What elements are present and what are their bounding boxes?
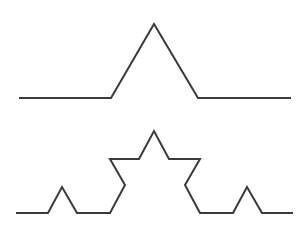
koch-curve-iteration-2 <box>16 131 293 213</box>
koch-diagram <box>0 0 303 225</box>
koch-curve-iteration-1 <box>19 24 291 98</box>
